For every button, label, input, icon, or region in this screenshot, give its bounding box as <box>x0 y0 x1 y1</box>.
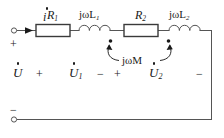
u2-letter: U <box>149 65 158 80</box>
inductor-l2-label: jωL2 <box>169 9 189 21</box>
inductor-l1-label: jωL1 <box>79 9 99 21</box>
u2-label: U2 <box>149 66 162 81</box>
current-arrow-icon <box>25 27 33 34</box>
resistor-r2-subscript: 2 <box>142 14 146 23</box>
resistor-r1-label: R1 <box>47 9 58 22</box>
coupling-arrowhead-right <box>167 44 173 50</box>
inductor-l1-prefix: jωL <box>79 8 96 20</box>
inductor-l2-subscript: 2 <box>186 14 189 21</box>
resistor-r1-subscript: 1 <box>54 14 58 23</box>
u2-plus-sign: + <box>114 68 121 80</box>
u1-minus-sign: − <box>97 68 104 80</box>
source-minus-sign: − <box>10 104 17 116</box>
u1-label: U1 <box>69 66 82 81</box>
current-label: i <box>43 11 46 23</box>
resistor-r1-symbol <box>36 25 70 37</box>
source-plus-sign: + <box>10 38 17 50</box>
u1-subscript: 1 <box>78 72 82 81</box>
terminal-top-node <box>11 28 16 33</box>
schematic-drawing <box>0 0 224 138</box>
source-voltage-label: U <box>13 66 22 79</box>
u2-minus-sign: − <box>196 68 203 80</box>
resistor-r2-label: R2 <box>135 9 146 22</box>
inductor-l1-symbol <box>79 25 110 30</box>
inductor-l1-subscript: 1 <box>96 14 99 21</box>
inductor-l2-prefix: jωL <box>169 8 186 20</box>
resistor-r2-symbol <box>124 25 158 37</box>
u1-letter: U <box>69 65 78 80</box>
u1-plus-sign: + <box>36 68 43 80</box>
circuit-diagram-canvas: i R1 jωL1 R2 jωL2 jωM + − U + U1 − + U2 … <box>0 0 224 138</box>
terminal-bottom-node <box>11 117 16 122</box>
coupling-arrowhead-left <box>106 44 112 50</box>
inductor-l2-symbol <box>169 25 200 30</box>
mutual-inductance-label: jωM <box>122 55 142 66</box>
coupling-dot-right <box>167 39 171 43</box>
coupling-dot-left <box>109 39 113 43</box>
u2-subscript: 2 <box>158 72 162 81</box>
